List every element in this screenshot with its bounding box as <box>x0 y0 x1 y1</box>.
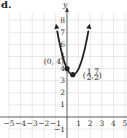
y-axis-label: y <box>62 0 68 9</box>
x-tick-label: 1 <box>76 119 81 128</box>
svg-text:): ) <box>99 71 102 80</box>
point-marker <box>64 66 69 71</box>
parabola-chart: −5−4−3−2−112345 −112345678 y (0, 4)(12,7… <box>0 0 127 138</box>
y-tick-label: −1 <box>54 125 65 134</box>
y-tick-label: 1 <box>60 100 65 109</box>
point-marker <box>70 72 75 77</box>
x-tick-label: −3 <box>27 119 38 128</box>
x-tick-label: −4 <box>15 119 26 128</box>
point-label-0-4: (0, 4) <box>44 57 64 66</box>
y-tick-label: 8 <box>60 16 65 25</box>
svg-text:(: ( <box>83 71 86 80</box>
y-tick-label: 2 <box>60 88 65 97</box>
x-tick-labels: −5−4−3−2−112345 <box>3 119 127 128</box>
x-tick-label: 3 <box>99 119 104 128</box>
x-tick-label: 5 <box>123 119 127 128</box>
labeled-points <box>64 66 75 77</box>
y-tick-label: 3 <box>60 76 65 85</box>
x-tick-label: 4 <box>111 119 116 128</box>
x-tick-label: 2 <box>88 119 93 128</box>
point-annotations: (0, 4)(12,72) <box>44 57 102 82</box>
point-label-vertex: (12,72) <box>83 67 102 83</box>
x-tick-label: −5 <box>3 119 14 128</box>
y-tick-label: 7 <box>60 28 65 37</box>
x-tick-label: −2 <box>38 119 49 128</box>
